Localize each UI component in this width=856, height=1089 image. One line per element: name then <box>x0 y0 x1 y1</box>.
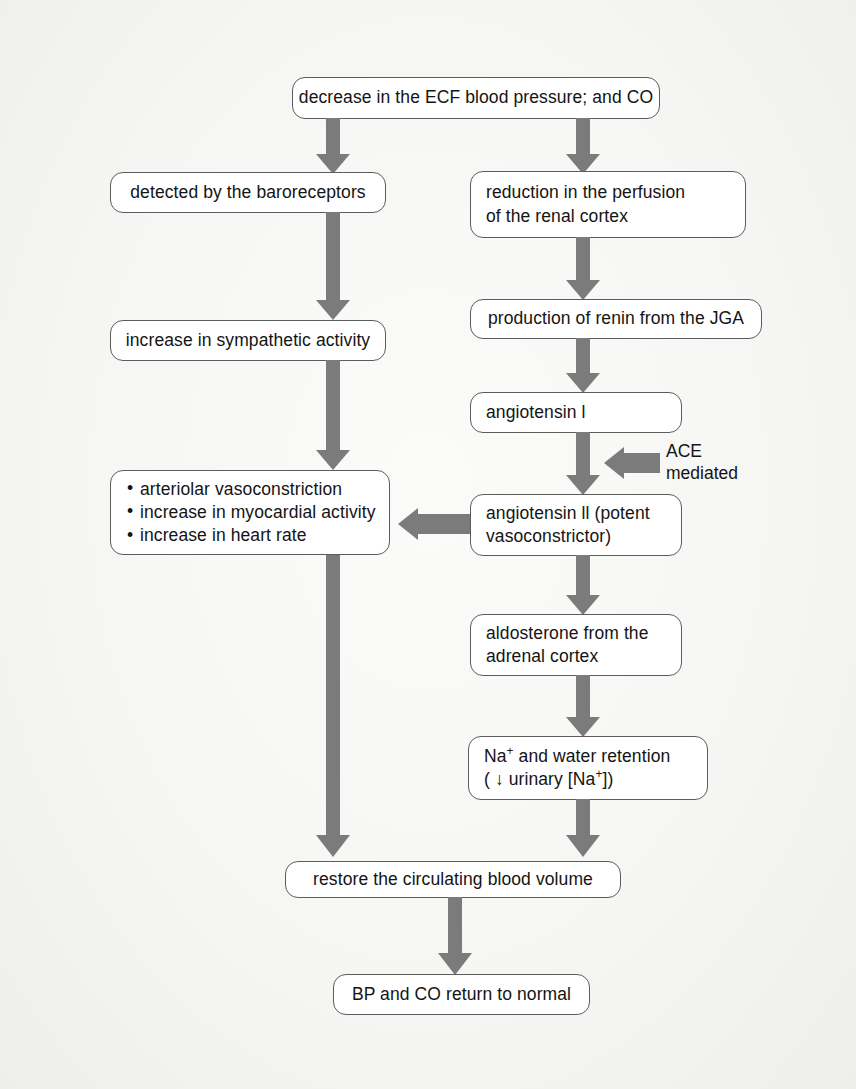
node-bp-co-normal[interactable]: BP and CO return to normal <box>333 974 590 1015</box>
node-aldosterone-line1: aldosterone from the <box>486 622 666 645</box>
node-sodium-retention-line1-sup: + <box>507 744 514 758</box>
node-effects-bullet-3: increase in heart rate <box>127 524 373 547</box>
node-aldosterone-line2: adrenal cortex <box>486 645 666 668</box>
node-restore-blood-volume[interactable]: restore the circulating blood volume <box>285 861 621 898</box>
node-aldosterone[interactable]: aldosterone from the adrenal cortex <box>470 614 682 676</box>
node-decrease-bp-line1: decrease in the ECF blood pressure; and … <box>299 86 653 109</box>
node-angiotensin-1[interactable]: angiotensin l <box>470 392 682 433</box>
node-effects-bullet-1: arteriolar vasoconstriction <box>127 478 373 501</box>
node-renal-perfusion[interactable]: reduction in the perfusion of the renal … <box>470 171 746 238</box>
node-sodium-retention-line2-pre: ( ↓ urinary [Na <box>484 769 595 789</box>
node-restore-blood-volume-line1: restore the circulating blood volume <box>313 868 593 891</box>
node-sodium-retention-line1-post: and water retention <box>514 746 671 766</box>
node-sodium-retention-line2: ( ↓ urinary [Na+]) <box>484 768 692 791</box>
flowchart-canvas: decrease in the ECF blood pressure; and … <box>0 0 856 1089</box>
label-ace-mediated-line2: mediated <box>666 462 738 484</box>
node-effects-bullet-2: increase in myocardial activity <box>127 501 373 524</box>
node-sodium-retention-line2-post: ]) <box>602 769 613 789</box>
node-angiotensin-1-line1: angiotensin l <box>486 401 666 424</box>
node-renin-production[interactable]: production of renin from the JGA <box>470 299 762 339</box>
node-sodium-water-retention[interactable]: Na+ and water retention ( ↓ urinary [Na+… <box>468 736 708 800</box>
node-angiotensin-2[interactable]: angiotensin ll (potent vasoconstrictor) <box>470 494 682 556</box>
node-sympathetic-activity-line1: increase in sympathetic activity <box>126 329 370 352</box>
node-bp-co-normal-line1: BP and CO return to normal <box>352 983 571 1006</box>
node-angiotensin-2-line1: angiotensin ll (potent <box>486 502 666 525</box>
node-sodium-retention-line1: Na+ and water retention <box>484 745 692 768</box>
node-renin-production-line1: production of renin from the JGA <box>488 307 744 330</box>
label-ace-mediated: ACE mediated <box>666 440 738 485</box>
node-sympathetic-activity[interactable]: increase in sympathetic activity <box>110 320 386 361</box>
node-baroreceptors-line1: detected by the baroreceptors <box>130 181 365 204</box>
label-ace-mediated-line1: ACE <box>666 440 738 462</box>
node-cardiovascular-effects[interactable]: arteriolar vasoconstriction increase in … <box>110 470 390 555</box>
node-renal-perfusion-line2: of the renal cortex <box>486 205 730 228</box>
node-sodium-retention-line1-pre: Na <box>484 746 507 766</box>
node-baroreceptors[interactable]: detected by the baroreceptors <box>110 172 386 213</box>
node-decrease-bp[interactable]: decrease in the ECF blood pressure; and … <box>292 77 660 119</box>
node-renal-perfusion-line1: reduction in the perfusion <box>486 181 730 204</box>
node-angiotensin-2-line2: vasoconstrictor) <box>486 525 666 548</box>
